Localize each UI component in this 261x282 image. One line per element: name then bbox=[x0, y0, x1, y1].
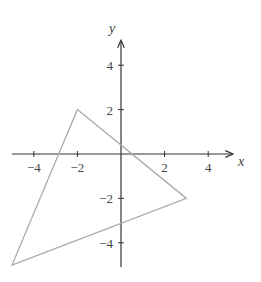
y-tick-label: 4 bbox=[107, 58, 114, 73]
x-tick-label: −2 bbox=[70, 160, 84, 175]
axes: x y bbox=[12, 21, 245, 267]
coordinate-plane: x y −4−22442−2−4 bbox=[0, 0, 261, 282]
x-tick-label: 2 bbox=[161, 160, 168, 175]
x-tick-label: 4 bbox=[205, 160, 212, 175]
y-tick-label: −2 bbox=[99, 191, 113, 206]
y-tick-label: −4 bbox=[99, 236, 113, 251]
y-axis-label: y bbox=[107, 21, 116, 36]
y-tick-label: 2 bbox=[107, 103, 114, 118]
x-tick-label: −4 bbox=[27, 160, 41, 175]
x-axis-label: x bbox=[237, 154, 245, 169]
